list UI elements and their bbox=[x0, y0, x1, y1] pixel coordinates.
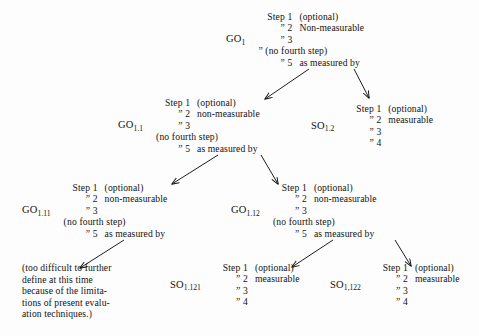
step-value: Non-measurable bbox=[299, 22, 364, 33]
step-key: ” (no fourth step) bbox=[248, 45, 322, 56]
node-go1-1-label: GO1.1 bbox=[118, 120, 143, 131]
step-row: ” 2 measurable bbox=[364, 273, 460, 284]
step-key: (no fourth step) bbox=[54, 216, 128, 227]
step-key: ” 3 bbox=[364, 285, 415, 296]
step-row: (no fourth step) bbox=[263, 216, 377, 227]
step-key: Step 1 bbox=[54, 182, 105, 193]
step-value: non-measurable bbox=[314, 193, 377, 204]
step-value: (optional) bbox=[314, 182, 353, 193]
step-row: ” 4 bbox=[364, 296, 460, 307]
step-value: (optional) bbox=[299, 11, 338, 22]
node-so1-121[interactable]: SO1.121 Step 1 (optional) ” 2 measurable… bbox=[170, 262, 300, 308]
step-row: ” 4 bbox=[337, 137, 433, 148]
step-key: ” 2 bbox=[204, 273, 255, 284]
step-row: Step 1 (optional) bbox=[204, 262, 300, 273]
node-so1-2[interactable]: SO1.2 Step 1 (optional) ” 2 measurable ”… bbox=[311, 103, 433, 149]
node-go1-1[interactable]: GO1.1 Step 1 (optional) ” 2 non-measurab… bbox=[118, 97, 260, 154]
node-so1-2-steps: Step 1 (optional) ” 2 measurable ” 3 ” 4 bbox=[337, 103, 433, 149]
step-value: measurable bbox=[255, 273, 300, 284]
step-row: ” 2 non-measurable bbox=[263, 193, 377, 204]
step-value: (optional) bbox=[255, 262, 294, 273]
node-so1-121-steps: Step 1 (optional) ” 2 measurable ” 3 ” 4 bbox=[204, 262, 300, 308]
step-value: measurable bbox=[415, 273, 460, 284]
node-go1-steps: Step 1 (optional) ” 2 Non-measurable ” 3… bbox=[248, 11, 364, 68]
node-go1-12[interactable]: GO1.12 Step 1 (optional) ” 2 non-measura… bbox=[231, 182, 377, 239]
step-key: ” 3 bbox=[146, 120, 197, 131]
step-key: ” 3 bbox=[204, 285, 255, 296]
step-row: Step 1 (optional) bbox=[364, 262, 460, 273]
step-row: Step 1 (optional) bbox=[248, 11, 364, 22]
node-go1-11-steps: Step 1 (optional) ” 2 non-measurable ” 3… bbox=[54, 182, 168, 239]
step-row: ” 2 non-measurable bbox=[54, 193, 168, 204]
step-row: ” 5 as measured by bbox=[263, 228, 377, 239]
step-key: ” 2 bbox=[263, 193, 314, 204]
step-row: ” 3 bbox=[364, 285, 460, 296]
step-value: as measured by bbox=[314, 228, 375, 239]
node-go1-12-label: GO1.12 bbox=[231, 205, 260, 216]
node-so1-122-steps: Step 1 (optional) ” 2 measurable ” 3 ” 4 bbox=[364, 262, 460, 308]
step-key: (no fourth step) bbox=[146, 131, 220, 142]
node-so1-121-label: SO1.121 bbox=[170, 280, 201, 291]
step-key: Step 1 bbox=[248, 11, 299, 22]
step-row: (no fourth step) bbox=[146, 131, 260, 142]
step-value: (optional) bbox=[388, 103, 427, 114]
step-value: non-measurable bbox=[105, 193, 168, 204]
step-key: ” 4 bbox=[364, 296, 415, 307]
step-value: as measured by bbox=[299, 57, 360, 68]
step-row: Step 1 (optional) bbox=[54, 182, 168, 193]
step-row: Step 1 (optional) bbox=[146, 97, 260, 108]
terminal-note-line: (too difficult to further bbox=[22, 262, 147, 274]
step-key: Step 1 bbox=[146, 97, 197, 108]
step-row: Step 1 (optional) bbox=[337, 103, 433, 114]
step-value: (optional) bbox=[197, 97, 236, 108]
diagram-canvas: GO1 Step 1 (optional) ” 2 Non-measurable… bbox=[0, 0, 479, 336]
edge-go1-to-so1-2 bbox=[354, 69, 369, 98]
node-go1-1-steps: Step 1 (optional) ” 2 non-measurable ” 3… bbox=[146, 97, 260, 154]
step-key: ” 5 bbox=[146, 143, 197, 154]
node-go1-11[interactable]: GO1.11 Step 1 (optional) ” 2 non-measura… bbox=[22, 182, 167, 239]
terminal-note-line: ation techniques.) bbox=[22, 308, 147, 320]
step-key: Step 1 bbox=[337, 103, 388, 114]
node-so1-2-label: SO1.2 bbox=[311, 121, 334, 132]
step-row: ” (no fourth step) bbox=[248, 45, 364, 56]
node-so1-122[interactable]: SO1,122 Step 1 (optional) ” 2 measurable… bbox=[330, 262, 460, 308]
step-key: ” 4 bbox=[204, 296, 255, 307]
step-row: ” 2 measurable bbox=[337, 114, 433, 125]
step-key: ” 3 bbox=[54, 205, 105, 216]
step-value: measurable bbox=[388, 114, 433, 125]
terminal-note-line: tions of present evalu- bbox=[22, 297, 147, 309]
step-key: ” 2 bbox=[248, 22, 299, 33]
node-so1-122-label: SO1,122 bbox=[330, 280, 361, 291]
step-key: ” 5 bbox=[263, 228, 314, 239]
step-key: ” 2 bbox=[54, 193, 105, 204]
node-go1-11-label: GO1.11 bbox=[22, 205, 51, 216]
node-go1[interactable]: GO1 Step 1 (optional) ” 2 Non-measurable… bbox=[226, 11, 364, 68]
step-key: ” 2 bbox=[364, 273, 415, 284]
step-key: ” 2 bbox=[337, 114, 388, 125]
step-row: ” 5 as measured by bbox=[54, 228, 168, 239]
step-value: (optional) bbox=[105, 182, 144, 193]
step-key: ” 3 bbox=[337, 126, 388, 137]
node-go1-12-steps: Step 1 (optional) ” 2 non-measurable ” 3… bbox=[263, 182, 377, 239]
step-key: ” 2 bbox=[146, 108, 197, 119]
step-row: ” 4 bbox=[204, 296, 300, 307]
step-key: ” 3 bbox=[263, 205, 314, 216]
step-key: ” 3 bbox=[248, 34, 299, 45]
step-row: ” 5 as measured by bbox=[248, 57, 364, 68]
step-row: (no fourth step) bbox=[54, 216, 168, 227]
step-row: ” 5 as measured by bbox=[146, 143, 260, 154]
step-key: Step 1 bbox=[263, 182, 314, 193]
edge-go1-to-go1-1 bbox=[265, 69, 309, 99]
step-key: (no fourth step) bbox=[263, 216, 337, 227]
step-row: ” 3 bbox=[204, 285, 300, 296]
terminal-note: (too difficult to further define at this… bbox=[22, 262, 147, 320]
step-row: Step 1 (optional) bbox=[263, 182, 377, 193]
terminal-note-line: because of the limita- bbox=[22, 285, 147, 297]
step-value: as measured by bbox=[105, 228, 166, 239]
step-row: ” 2 non-measurable bbox=[146, 108, 260, 119]
step-value: (optional) bbox=[415, 262, 454, 273]
node-go1-label: GO1 bbox=[226, 34, 245, 45]
step-key: ” 5 bbox=[248, 57, 299, 68]
step-key: ” 5 bbox=[54, 228, 105, 239]
step-key: Step 1 bbox=[364, 262, 415, 273]
